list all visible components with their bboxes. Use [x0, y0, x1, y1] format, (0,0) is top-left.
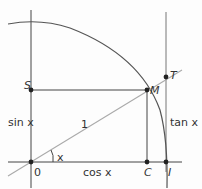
label-tan: tan x — [170, 117, 198, 128]
label-i: I — [168, 167, 171, 178]
point-m — [145, 88, 150, 93]
label-cos: cos x — [83, 167, 112, 178]
angle-arc — [51, 150, 53, 162]
label-angle: x — [57, 152, 64, 163]
label-s: S — [24, 80, 31, 91]
label-sin: sin x — [8, 117, 34, 128]
label-o: 0 — [34, 167, 41, 178]
point-o — [29, 160, 34, 165]
point-i — [164, 160, 169, 165]
point-c — [145, 160, 150, 165]
label-t: T — [170, 70, 177, 81]
label-m: M — [150, 85, 160, 96]
point-t — [164, 75, 169, 80]
unit-circle-diagram: S M T 0 C I sin x cos x tan x 1 x — [0, 0, 202, 189]
diagram-canvas — [0, 0, 202, 189]
label-radius: 1 — [81, 119, 88, 130]
label-c: C — [144, 167, 152, 178]
